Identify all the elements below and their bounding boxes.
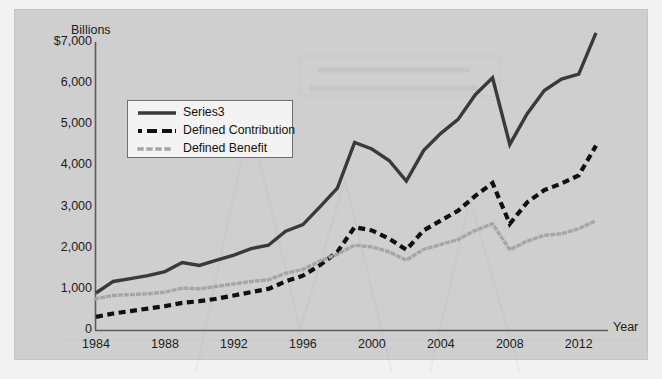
- series-line: [96, 221, 596, 299]
- legend-item-series3[interactable]: Series3: [128, 103, 292, 122]
- chart-canvas: [0, 0, 662, 379]
- legend-label: Series3: [183, 105, 225, 119]
- x-tick-label: 2004: [427, 337, 455, 351]
- legend-item-defined-benefit[interactable]: Defined Benefit: [128, 139, 292, 158]
- legend-label: Defined Contribution: [183, 123, 295, 137]
- y-tick-label: 1,000: [61, 281, 92, 295]
- legend-swatch-solid: [137, 103, 177, 122]
- x-tick-label: 1984: [82, 337, 110, 351]
- x-tick-label: 2000: [358, 337, 386, 351]
- data-series-group: [96, 33, 596, 317]
- x-tick-label: 1996: [289, 337, 317, 351]
- legend-item-defined-contribution[interactable]: Defined Contribution: [128, 121, 292, 140]
- y-axis-title: Billions: [71, 23, 111, 37]
- axis-lines: [95, 42, 608, 331]
- x-tick-label: 2008: [496, 337, 524, 351]
- chart-legend: Series3 Defined Contribution Defined Ben…: [127, 100, 293, 158]
- y-tick-label: 5,000: [61, 116, 92, 130]
- y-tick-label: 3,000: [61, 199, 92, 213]
- y-tick-label: 0: [85, 322, 92, 336]
- chart-page: $7,0006,0005,0004,0003,0002,0001,0000 19…: [0, 0, 662, 379]
- y-tick-labels: $7,0006,0005,0004,0003,0002,0001,0000: [0, 0, 92, 379]
- x-tick-label: 1988: [151, 337, 179, 351]
- y-tick-label: 4,000: [61, 157, 92, 171]
- x-axis-title: Year: [613, 320, 638, 334]
- legend-label: Defined Benefit: [183, 141, 267, 155]
- y-tick-label: 2,000: [61, 240, 92, 254]
- legend-swatch-dotted: [137, 139, 177, 158]
- legend-swatch-dashed: [137, 121, 177, 140]
- x-tick-label: 2012: [565, 337, 593, 351]
- y-tick-label: 6,000: [61, 75, 92, 89]
- series-line: [96, 146, 596, 317]
- x-tick-label: 1992: [220, 337, 248, 351]
